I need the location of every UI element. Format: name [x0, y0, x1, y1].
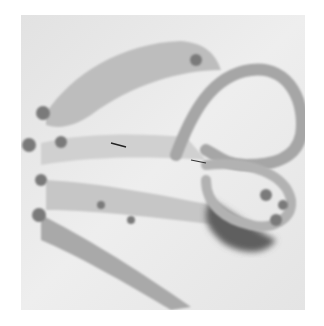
fabric-rope-image [21, 15, 305, 310]
photograph [21, 15, 305, 310]
